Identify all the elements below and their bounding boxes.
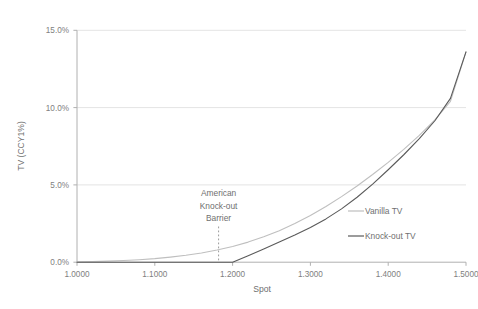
y-axis-title: TV (CCY1%) — [16, 121, 26, 171]
legend-label-vanilla-tv: Vanilla TV — [365, 206, 403, 216]
x-tick-label-1: 1.0000 — [64, 270, 89, 279]
gridlines — [77, 30, 466, 185]
barrier-annotation-line1: American — [201, 188, 237, 198]
x-tick-label-4: 1.3000 — [298, 270, 323, 279]
barrier-annotation-line3: Barrier — [206, 213, 231, 223]
y-tick-label-5: 5.0% — [50, 181, 69, 190]
chart-container: 15.0% 10.0% 5.0% 0.0% 1.0000 1.1000 1.20… — [0, 0, 478, 309]
y-tick-label-10: 10.0% — [46, 104, 69, 113]
x-tick-label-6: 1.5000 — [453, 270, 478, 279]
x-tick-label-5: 1.4000 — [376, 270, 401, 279]
x-tick-label-2: 1.1000 — [142, 270, 167, 279]
y-tick-label-0: 0.0% — [50, 258, 69, 267]
barrier-annotation: American Knock-out Barrier — [200, 188, 238, 223]
y-axis-ticks — [73, 30, 77, 262]
x-tick-label-3: 1.2000 — [220, 270, 245, 279]
barrier-annotation-line2: Knock-out — [200, 201, 238, 211]
tv-vs-spot-line-chart: 15.0% 10.0% 5.0% 0.0% 1.0000 1.1000 1.20… — [0, 0, 478, 309]
legend-label-knockout-tv: Knock-out TV — [365, 231, 416, 241]
x-axis-title: Spot — [253, 284, 271, 294]
y-tick-label-15: 15.0% — [46, 26, 69, 35]
chart-legend: Vanilla TV Knock-out TV — [348, 206, 416, 241]
